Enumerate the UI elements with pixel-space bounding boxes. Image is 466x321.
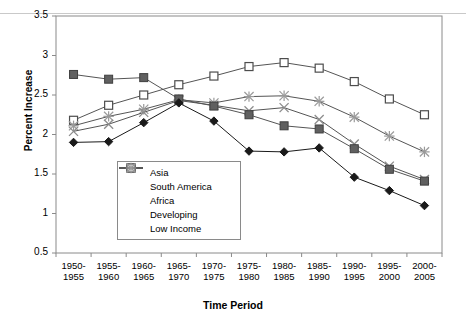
- data-point: [70, 70, 78, 78]
- data-point: [104, 137, 112, 145]
- data-point: [384, 131, 394, 141]
- legend-item-low-income: Low Income: [122, 221, 236, 235]
- data-point: [210, 72, 218, 80]
- legend-label: Developing: [148, 209, 198, 220]
- open-square-icon: [122, 194, 148, 206]
- legend-label: South America: [148, 181, 212, 192]
- data-point: [315, 125, 323, 133]
- data-point: [68, 121, 78, 131]
- data-point: [350, 145, 358, 153]
- data-point: [105, 75, 113, 83]
- data-point: [245, 63, 253, 71]
- legend: AsiaSouth AmericaAfricaDevelopingLow Inc…: [117, 161, 241, 240]
- filled-square-icon: [122, 180, 148, 192]
- legend-item-africa: Africa: [122, 193, 236, 207]
- data-point: [385, 95, 393, 103]
- data-point: [105, 101, 113, 109]
- data-point: [140, 118, 148, 126]
- data-point: [385, 165, 393, 173]
- chart-container: Percent Increase Time Period 3.532.521.5…: [0, 0, 466, 321]
- data-point: [140, 74, 148, 82]
- data-point: [279, 91, 289, 101]
- data-point: [280, 122, 288, 130]
- data-point: [350, 78, 358, 86]
- series-line: [74, 96, 425, 152]
- legend-item-south-america: South America: [122, 179, 236, 193]
- data-point: [140, 91, 148, 99]
- data-point: [420, 111, 428, 119]
- data-point: [420, 201, 428, 209]
- data-point: [349, 112, 359, 122]
- legend-item-developing: Developing: [122, 207, 236, 221]
- data-point: [210, 102, 218, 110]
- data-point: [315, 115, 324, 124]
- legend-label: Africa: [148, 195, 174, 206]
- data-point: [244, 91, 254, 101]
- data-point: [420, 177, 428, 185]
- data-point: [315, 64, 323, 72]
- legend-marker: [126, 163, 136, 173]
- cross-x-icon: [122, 208, 148, 220]
- asterisk-icon: [122, 222, 148, 234]
- plot-border: [56, 16, 442, 253]
- data-point: [280, 59, 288, 67]
- data-point: [69, 138, 77, 146]
- legend-label: Asia: [148, 167, 168, 178]
- data-point: [314, 96, 324, 106]
- data-point: [385, 186, 393, 194]
- data-point: [419, 147, 429, 157]
- legend-label: Low Income: [148, 223, 201, 234]
- data-point: [280, 148, 288, 156]
- data-point: [245, 111, 253, 119]
- data-point: [175, 81, 183, 89]
